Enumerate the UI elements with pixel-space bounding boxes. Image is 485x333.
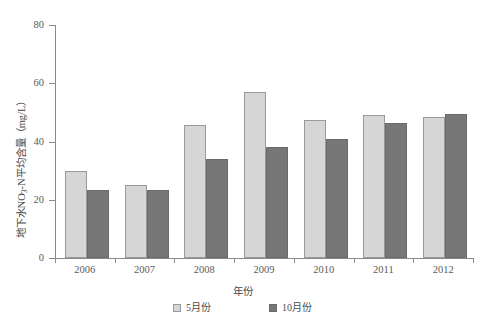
bar [423,117,445,258]
bar-group [363,25,407,258]
x-axis-tick [413,259,414,263]
bar [147,190,169,258]
y-axis-title-subscript: 3 [20,189,29,193]
y-axis-tick-label: 40 [14,136,44,147]
chart-legend: 5月份10月份 [0,303,485,313]
legend-swatch-icon [269,304,277,312]
y-axis-tick-label: 0 [14,252,44,263]
y-axis-tick-label: 80 [14,19,44,30]
bar-group [304,25,348,258]
bar-group [423,25,467,258]
bar [326,139,348,258]
legend-swatch-icon [173,304,181,312]
bar [363,115,385,258]
bar [125,185,147,258]
bar-group [125,25,169,258]
bar [304,120,326,258]
x-axis-tick [234,259,235,263]
bar [65,171,87,258]
x-axis-tick [55,259,56,263]
x-axis-title: 年份 [0,283,485,298]
x-axis-tick [354,259,355,263]
bar [244,92,266,258]
bar [266,147,288,258]
legend-item[interactable]: 5月份 [173,303,211,313]
legend-label: 5月份 [186,303,211,313]
legend-label: 10月份 [282,303,312,313]
bar-group [244,25,288,258]
x-axis-label: 2012 [408,264,478,275]
bar [87,190,109,258]
y-axis-tick-label: 20 [14,194,44,205]
bar-group [184,25,228,258]
x-axis-line [55,258,474,259]
y-axis-tick-label: 60 [14,77,44,88]
bar [445,114,467,258]
bar-chart: 地下水NO3-N平均含量（mg/L） 020406080 20062007200… [0,0,485,333]
legend-item[interactable]: 10月份 [269,303,312,313]
bar-group [65,25,109,258]
bar [184,125,206,258]
x-axis-tick [294,259,295,263]
x-axis-tick [473,259,474,263]
bar [206,159,228,258]
x-axis-tick [115,259,116,263]
bar [385,123,407,258]
x-axis-tick [174,259,175,263]
plot-area [55,25,473,258]
